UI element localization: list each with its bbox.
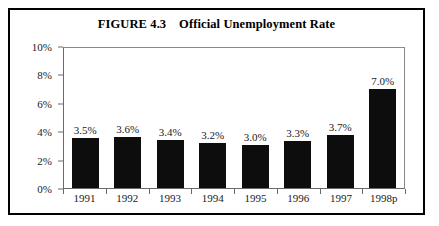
bar-slot: 3.7% — [319, 48, 362, 188]
y-tick-label: 10% — [32, 41, 52, 53]
bar — [242, 145, 269, 188]
plot-area: 3.5%3.6%3.4%3.2%3.0%3.3%3.7%7.0% — [63, 47, 405, 189]
y-tick-label: 4% — [37, 126, 52, 138]
bar-slot: 3.0% — [234, 48, 277, 188]
bar — [369, 89, 396, 188]
y-tick-label: 6% — [37, 98, 52, 110]
y-axis: 0%2%4%6%8%10% — [10, 47, 58, 189]
bars-layer: 3.5%3.6%3.4%3.2%3.0%3.3%3.7%7.0% — [64, 48, 404, 188]
bar-value-label: 3.4% — [149, 126, 192, 138]
bar-slot: 3.3% — [277, 48, 320, 188]
y-tick-label: 8% — [37, 69, 52, 81]
bar-slot: 3.5% — [64, 48, 107, 188]
bar-value-label: 3.7% — [319, 121, 362, 133]
bar-value-label: 3.2% — [192, 129, 235, 141]
x-tick-label: 1997 — [320, 192, 363, 212]
figure-title: FIGURE 4.3 Official Unemployment Rate — [10, 17, 423, 32]
y-tick-label: 2% — [37, 155, 52, 167]
x-tick-label: 1993 — [149, 192, 192, 212]
bar-value-label: 3.3% — [277, 127, 320, 139]
bar-value-label: 7.0% — [362, 75, 405, 87]
bar — [284, 141, 311, 188]
bar-slot: 7.0% — [362, 48, 405, 188]
x-tick-label: 1992 — [106, 192, 149, 212]
x-tick-label: 1991 — [63, 192, 106, 212]
x-axis: 19911992199319941995199619971998p — [63, 192, 405, 212]
x-tick-label: 1994 — [191, 192, 234, 212]
figure-frame: FIGURE 4.3 Official Unemployment Rate 0%… — [8, 8, 425, 215]
bar-slot: 3.4% — [149, 48, 192, 188]
x-tick-mark — [405, 189, 406, 194]
bar — [199, 143, 226, 188]
bar — [114, 137, 141, 188]
bar-value-label: 3.5% — [64, 124, 107, 136]
x-tick-label: 1995 — [234, 192, 277, 212]
y-tick-label: 0% — [37, 183, 52, 195]
x-tick-label: 1998p — [362, 192, 405, 212]
bar-slot: 3.2% — [192, 48, 235, 188]
bar — [157, 140, 184, 188]
bar-value-label: 3.0% — [234, 131, 277, 143]
x-tick-label: 1996 — [277, 192, 320, 212]
bar — [72, 138, 99, 188]
bar-value-label: 3.6% — [107, 123, 150, 135]
bar-slot: 3.6% — [107, 48, 150, 188]
bar — [327, 135, 354, 188]
